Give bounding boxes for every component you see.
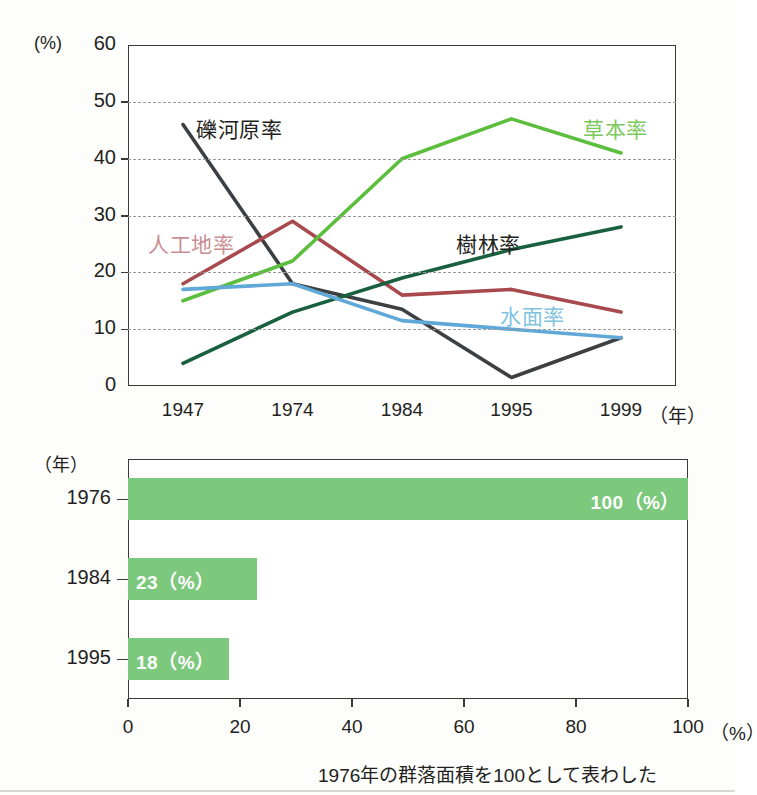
tick-x [239,699,241,707]
tick-x [463,699,465,707]
bar-value-label: 18（%） [136,647,221,674]
tick-y [121,215,128,217]
tick-y [117,499,128,501]
line-series [183,221,621,312]
series-label: 人工地率 [148,228,234,258]
ytick-label: 60 [66,32,116,55]
bar-value-label: 100（%） [136,487,680,514]
series-label: 礫河原率 [196,113,282,143]
xtick-label: 1995 [462,399,562,421]
page-bottom-rule [0,790,735,792]
xtick-label: 40 [302,716,402,738]
bar-chart: （年） 100（%）23（%）18（%） 1976年の群落面積を100として表わ… [0,430,735,795]
gridline-y [128,329,676,330]
line-chart: (%) 010203040506019471974198419951999（年）… [0,0,735,430]
tick-x [687,699,689,707]
gridline-y [128,216,676,217]
gridline-y [128,272,676,273]
bar-chart-x-unit-label: （%） [710,718,757,745]
xtick-label: 20 [190,716,290,738]
bar-value-label: 23（%） [136,567,249,594]
ytick-label: 1984 [33,566,111,589]
series-label: 樹林率 [456,228,521,258]
ytick-label: 40 [66,146,116,169]
xtick-label: 1984 [352,399,452,421]
line-series [183,125,621,378]
line-chart-x-unit-label: （年） [649,401,706,428]
ytick-label: 50 [66,89,116,112]
tick-y [121,101,128,103]
bar-chart-y-unit-label: （年） [34,450,88,476]
tick-y [117,579,128,581]
ytick-label: 10 [66,316,116,339]
xtick-label: 60 [414,716,514,738]
gridline-y [128,102,676,103]
series-label: 草本率 [583,113,648,143]
tick-x [351,699,353,707]
ytick-label: 20 [66,259,116,282]
bar-chart-caption: 1976年の群落面積を100として表わした [318,760,657,787]
tick-x [575,699,577,707]
ytick-label: 30 [66,203,116,226]
ytick-label: 1976 [33,486,111,509]
xtick-label: 1947 [133,399,233,421]
ytick-label: 1995 [33,646,111,669]
xtick-label: 1974 [243,399,343,421]
series-label: 水面率 [500,300,565,330]
tick-y [121,329,128,331]
line-series [183,119,621,301]
tick-y [121,272,128,274]
xtick-label: 80 [526,716,626,738]
tick-y [121,158,128,160]
tick-x [127,699,129,707]
ytick-label: 0 [66,373,116,396]
gridline-y [128,159,676,160]
xtick-label: 0 [78,716,178,738]
tick-y [117,659,128,661]
